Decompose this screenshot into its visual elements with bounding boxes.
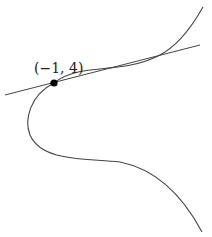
diagram-canvas: (−1, 4) [0,0,212,237]
curve [28,7,203,232]
diagram-svg [0,0,212,237]
point-label: (−1, 4) [34,61,83,75]
point-marker [50,79,57,86]
